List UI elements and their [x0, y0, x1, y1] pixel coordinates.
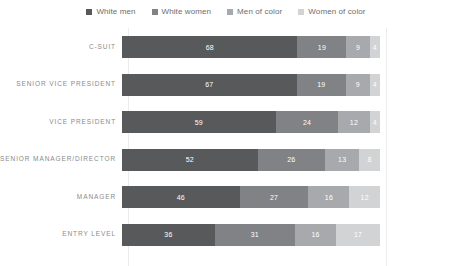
bar-segment[interactable]: 4	[370, 36, 380, 58]
bar-rows: C-SUIT681994SENIOR VICE PRESIDENT671994V…	[0, 28, 452, 266]
category-label: SENIOR VICE PRESIDENT	[0, 81, 122, 88]
bar-segment[interactable]: 4	[370, 74, 380, 96]
bar-segment[interactable]: 68	[122, 36, 297, 58]
stacked-bar-chart: White menWhite womenMen of colorWomen of…	[0, 0, 452, 266]
bar-segment-value: 31	[251, 231, 259, 238]
bar-segment[interactable]: 12	[349, 186, 380, 208]
bar-segment[interactable]: 16	[295, 224, 336, 246]
bar-segment-value: 36	[164, 231, 172, 238]
bar-segment[interactable]: 19	[297, 36, 346, 58]
category-label: ENTRY LEVEL	[0, 231, 122, 238]
bar-segment-value: 13	[338, 156, 346, 163]
legend-item-men_of_color[interactable]: Men of color	[227, 8, 282, 16]
bar-segment-value: 8	[368, 156, 372, 163]
plot-area: C-SUIT681994SENIOR VICE PRESIDENT671994V…	[0, 28, 452, 266]
bar-segment[interactable]: 36	[122, 224, 215, 246]
bar-segment-value: 12	[350, 119, 358, 126]
bar-segment-value: 4	[373, 44, 377, 51]
legend-swatch-icon	[86, 9, 92, 15]
bar-segment[interactable]: 8	[359, 149, 380, 171]
stacked-bar: 671994	[122, 74, 380, 96]
bar-segment[interactable]: 9	[346, 74, 369, 96]
stacked-bar: 46271612	[122, 186, 380, 208]
bar-segment-value: 4	[373, 119, 377, 126]
bar-segment-value: 59	[195, 119, 203, 126]
bar-segment[interactable]: 67	[122, 74, 297, 96]
legend-item-white_men[interactable]: White men	[86, 8, 135, 16]
legend-swatch-icon	[152, 9, 158, 15]
bar-segment-value: 26	[287, 156, 295, 163]
stacked-bar: 36311617	[122, 224, 380, 246]
bar-segment[interactable]: 4	[370, 111, 380, 133]
legend-item-label: White women	[162, 8, 212, 16]
chart-row: ENTRY LEVEL36311617	[0, 224, 452, 246]
bar-segment[interactable]: 46	[122, 186, 240, 208]
category-label: VICE PRESIDENT	[0, 119, 122, 126]
bar-segment[interactable]: 13	[325, 149, 359, 171]
category-label: C-SUIT	[0, 44, 122, 51]
bar-segment[interactable]: 19	[297, 74, 347, 96]
bar-segment[interactable]: 59	[122, 111, 276, 133]
chart-legend: White menWhite womenMen of colorWomen of…	[0, 8, 452, 16]
bar-segment[interactable]: 26	[258, 149, 326, 171]
chart-row: SENIOR MANAGER/DIRECTOR5226138	[0, 149, 452, 171]
chart-row: C-SUIT681994	[0, 36, 452, 58]
bar-segment-value: 19	[317, 81, 325, 88]
bar-segment[interactable]: 9	[346, 36, 369, 58]
bar-segment-value: 27	[270, 194, 278, 201]
chart-row: SENIOR VICE PRESIDENT671994	[0, 74, 452, 96]
bar-segment-value: 67	[205, 81, 213, 88]
bar-segment-value: 68	[206, 44, 214, 51]
bar-segment-value: 46	[177, 194, 185, 201]
bar-segment[interactable]: 24	[276, 111, 339, 133]
bar-segment[interactable]: 27	[240, 186, 309, 208]
bar-segment-value: 16	[325, 194, 333, 201]
category-label: MANAGER	[0, 194, 122, 201]
legend-swatch-icon	[298, 9, 304, 15]
legend-item-white_women[interactable]: White women	[152, 8, 212, 16]
bar-segment-value: 4	[373, 81, 377, 88]
category-label: SENIOR MANAGER/DIRECTOR	[0, 156, 122, 163]
bar-segment[interactable]: 16	[308, 186, 349, 208]
legend-item-label: Men of color	[237, 8, 282, 16]
bar-segment-value: 16	[311, 231, 319, 238]
bar-segment-value: 9	[356, 44, 360, 51]
stacked-bar: 5924124	[122, 111, 380, 133]
bar-segment-value: 9	[356, 81, 360, 88]
bar-segment-value: 17	[354, 231, 362, 238]
legend-item-women_of_color[interactable]: Women of color	[298, 8, 365, 16]
bar-segment-value: 19	[318, 44, 326, 51]
bar-segment[interactable]: 31	[215, 224, 295, 246]
chart-row: VICE PRESIDENT5924124	[0, 111, 452, 133]
bar-segment-value: 12	[361, 194, 369, 201]
chart-row: MANAGER46271612	[0, 186, 452, 208]
bar-segment-value: 52	[186, 156, 194, 163]
stacked-bar: 5226138	[122, 149, 380, 171]
bar-segment[interactable]: 17	[336, 224, 380, 246]
legend-swatch-icon	[227, 9, 233, 15]
legend-item-label: Women of color	[308, 8, 365, 16]
stacked-bar: 681994	[122, 36, 380, 58]
bar-segment-value: 24	[303, 119, 311, 126]
legend-item-label: White men	[96, 8, 135, 16]
bar-segment[interactable]: 52	[122, 149, 258, 171]
bar-segment[interactable]: 12	[338, 111, 369, 133]
